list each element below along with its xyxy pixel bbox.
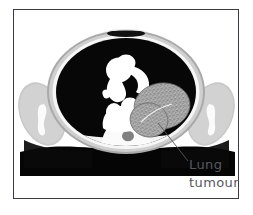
figure-root: Lung tumour — [0, 0, 253, 215]
annotation-label-lung: Lung — [189, 158, 222, 171]
sternum-notch — [107, 30, 145, 37]
spinal-canal — [122, 131, 134, 141]
annotation-label-tumour: tumour — [189, 176, 239, 189]
